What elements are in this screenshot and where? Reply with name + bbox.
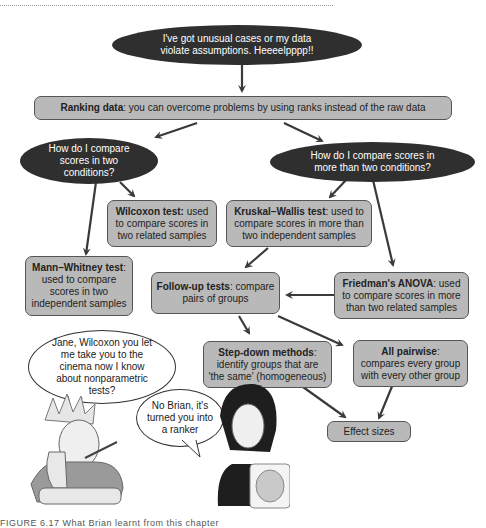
jane-illustration: [210, 380, 290, 510]
mann-whitney-title: Mann–Whitney test: [32, 262, 123, 273]
friedman-anova-box: Friedman's ANOVA: used to compare scores…: [334, 272, 469, 319]
kruskal-wallis-box: Kruskal–Wallis test: used to compare sco…: [226, 200, 372, 247]
mann-whitney-box: Mann–Whitney test: used to compare score…: [25, 256, 133, 316]
follow-up-tests-box: Follow-up tests: compare pairs of groups: [151, 272, 280, 314]
ranking-data-title: Ranking data: [60, 102, 123, 113]
effect-sizes-box: Effect sizes: [327, 421, 411, 442]
wilcoxon-title: Wilcoxon test:: [116, 206, 184, 217]
more-conditions-text: How do I compare scores in more than two…: [303, 150, 443, 174]
friedman-title: Friedman's ANOVA: [343, 278, 434, 289]
brian-speech-text: Jane, Wilcoxon you let me take you to th…: [46, 337, 158, 397]
step-down-title: Step-down methods: [218, 347, 314, 358]
start-cloud: I've got unusual cases or my data violat…: [112, 25, 362, 65]
effect-sizes-label: Effect sizes: [344, 426, 395, 438]
jane-speech-text: No Brian, it's turned you into a ranker: [145, 400, 215, 436]
jane-bubble-tail: [180, 440, 210, 460]
wilcoxon-box: Wilcoxon test: used to compare scores in…: [107, 200, 217, 247]
figure-caption: FIGURE 6.17 What Brian learnt from this …: [0, 518, 219, 528]
all-pairwise-box: All pairwise: compares every group with …: [353, 340, 468, 387]
two-conditions-cloud: How do I compare scores in two condition…: [20, 138, 158, 184]
brian-illustration: [25, 392, 130, 510]
start-cloud-text: I've got unusual cases or my data violat…: [152, 33, 322, 57]
more-conditions-cloud: How do I compare scores in more than two…: [270, 142, 475, 182]
ranking-data-box: Ranking data: you can overcome problems …: [34, 96, 452, 120]
ranking-data-desc: : you can overcome problems by using ran…: [123, 102, 425, 113]
all-pairwise-title: All pairwise: [381, 346, 437, 357]
kruskal-wallis-title: Kruskal–Wallis test: [234, 206, 325, 217]
follow-up-title: Follow-up tests: [157, 281, 230, 292]
two-conditions-text: How do I compare scores in two condition…: [37, 143, 142, 179]
